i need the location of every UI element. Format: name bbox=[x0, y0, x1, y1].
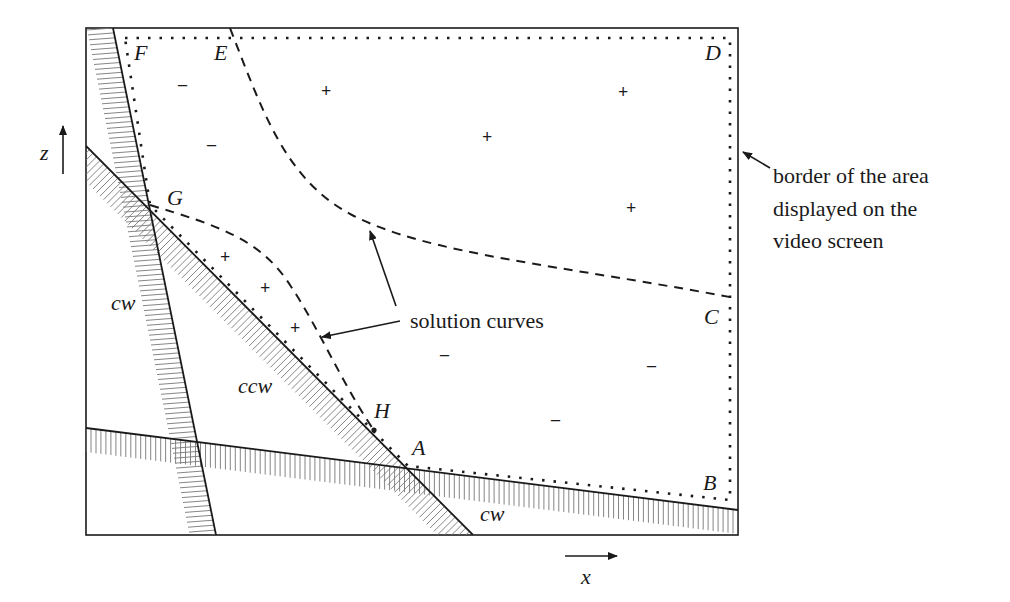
point-label-d: D bbox=[704, 40, 721, 65]
plus-sign: + bbox=[321, 81, 331, 101]
plus-sign: + bbox=[260, 278, 270, 298]
hatch-steep-line bbox=[87, 28, 216, 537]
border-annotation-line2: displayed on the bbox=[773, 196, 917, 221]
point-label-e: E bbox=[213, 40, 228, 65]
minus-sign: – bbox=[550, 409, 561, 429]
minus-sign: – bbox=[206, 134, 217, 154]
point-h-marker bbox=[371, 427, 376, 432]
region-label-ccw: ccw bbox=[238, 373, 273, 398]
solution-curves-arrow-lower bbox=[322, 321, 400, 337]
point-label-a: A bbox=[410, 435, 426, 460]
minus-sign: – bbox=[177, 74, 188, 94]
minus-sign: – bbox=[439, 344, 450, 364]
display-area-border bbox=[125, 38, 730, 500]
plus-sign: + bbox=[618, 82, 628, 102]
z-axis-label: z bbox=[39, 140, 49, 165]
border-annotation-line1: border of the area bbox=[773, 163, 929, 188]
region-label-cw-bottom: cw bbox=[480, 501, 505, 526]
point-label-b: B bbox=[703, 470, 716, 495]
region-label-cw-left: cw bbox=[111, 290, 136, 315]
plus-sign: + bbox=[482, 127, 492, 147]
border-annotation-line3: video screen bbox=[773, 228, 884, 253]
steep-boundary-line bbox=[113, 28, 216, 535]
point-label-c: C bbox=[704, 304, 719, 329]
phase-diagram: F E D G C H A B cw ccw cw – – + + + + + … bbox=[0, 0, 1010, 602]
x-axis-label: x bbox=[580, 564, 591, 589]
border-annotation-arrow bbox=[743, 152, 770, 168]
solution-curve-upper bbox=[230, 28, 735, 298]
point-label-f: F bbox=[133, 40, 148, 65]
plus-sign: + bbox=[290, 318, 300, 338]
solution-curves-arrow-upper bbox=[370, 231, 396, 306]
point-label-h: H bbox=[373, 398, 391, 423]
point-label-g: G bbox=[167, 185, 183, 210]
diagonal-boundary-line bbox=[86, 146, 473, 535]
solution-curves-label: solution curves bbox=[410, 308, 544, 333]
plus-sign: + bbox=[220, 247, 230, 267]
minus-sign: – bbox=[646, 355, 657, 375]
plus-sign: + bbox=[626, 198, 636, 218]
